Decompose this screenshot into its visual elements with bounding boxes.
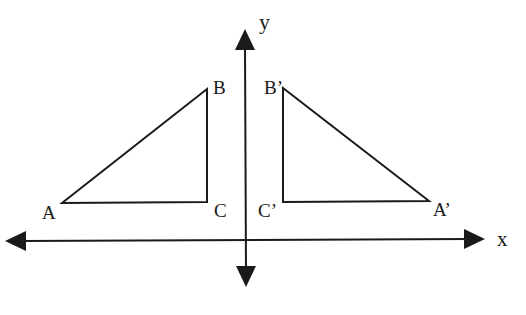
y-axis-label: y — [259, 11, 270, 33]
vertex-label-b: B — [213, 78, 226, 97]
vertex-label-a-prime: A’ — [433, 200, 451, 219]
y-axis-up-arrow-icon — [235, 29, 255, 50]
y-axis-down-arrow-icon — [236, 266, 256, 287]
x-axis-label: x — [497, 229, 508, 250]
x-axis-left-arrow-icon — [5, 231, 26, 251]
x-axis-right-arrow-icon — [464, 229, 485, 249]
y-axis — [235, 29, 256, 287]
vertex-label-c-prime: C’ — [258, 201, 277, 220]
triangle-a-prime-b-prime-c-prime — [283, 88, 429, 202]
vertex-label-c: C — [214, 201, 227, 220]
triangle-abc — [62, 89, 207, 203]
vertex-label-b-prime: B’ — [264, 78, 283, 97]
vertex-label-a: A — [42, 203, 56, 222]
coordinate-diagram — [0, 0, 526, 315]
